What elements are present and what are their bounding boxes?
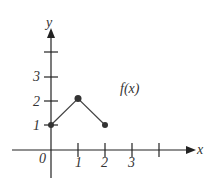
y-tick-label-1: 1 <box>33 118 40 133</box>
y-tick-label-3: 3 <box>32 69 40 84</box>
x-tick-label-1: 1 <box>75 155 82 170</box>
data-point <box>48 122 54 128</box>
origin-label: 0 <box>39 151 46 166</box>
x-axis-label: x <box>196 142 204 157</box>
x-tick-label-2: 2 <box>101 155 108 170</box>
y-tick-label-2: 2 <box>33 94 40 109</box>
y-axis-label: y <box>44 15 53 30</box>
function-label: f(x) <box>120 81 140 97</box>
data-point <box>102 122 108 128</box>
function-graph: y x 0 1 2 3 1 2 3 f(x) <box>0 0 214 185</box>
function-line <box>51 99 105 126</box>
x-axis-arrow-icon <box>186 146 196 154</box>
data-point <box>75 95 82 102</box>
x-tick-label-3: 3 <box>127 155 135 170</box>
